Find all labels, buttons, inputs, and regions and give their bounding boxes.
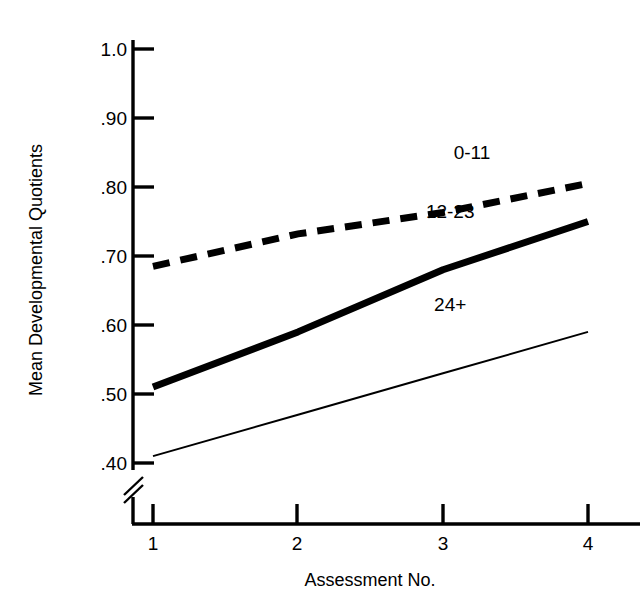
y-tick-label-.80: .80 [101,177,127,198]
series-label-0-11: 0-11 [454,142,491,163]
y-tick-label-1.0: 1.0 [101,39,127,60]
developmental-quotients-line-chart: 1.0 .90 .80 .70 .60 .50 .40 Mean Develop… [0,0,644,600]
y-axis-title: Mean Developmental Quotients [26,144,46,396]
series-line-12-23 [153,222,588,388]
y-tick-label-.50: .50 [101,384,127,405]
series-label-24-plus: 24+ [434,294,466,315]
x-axis-title: Assessment No. [304,570,435,590]
series-line-0-11 [153,184,588,267]
x-axis: 1 2 3 4 Assessment No. [132,504,640,590]
x-tick-label-2: 2 [292,533,303,554]
y-axis: 1.0 .90 .80 .70 .60 .50 .40 Mean Develop… [26,39,154,524]
x-tick-label-1: 1 [148,533,159,554]
series-annotations: 0-11 12-23 24+ [426,142,490,315]
x-tick-label-4: 4 [583,533,594,554]
series-label-12-23: 12-23 [426,201,475,222]
y-axis-ticks [133,49,154,463]
x-axis-ticks [153,504,588,524]
y-tick-label-.70: .70 [101,246,127,267]
plot-area [153,184,588,457]
y-tick-label-.60: .60 [101,315,127,336]
series-line-24-plus [153,332,588,456]
y-tick-label-.40: .40 [101,453,127,474]
chart-container: 1.0 .90 .80 .70 .60 .50 .40 Mean Develop… [0,0,644,600]
x-tick-label-3: 3 [438,533,449,554]
y-tick-label-.90: .90 [101,108,127,129]
